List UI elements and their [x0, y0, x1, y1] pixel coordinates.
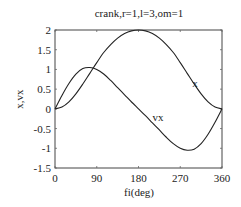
chart: crank,r=1,l=3,om=1 090180270360 21.510.5… — [0, 0, 241, 207]
y-tick-label: 0 — [46, 103, 52, 115]
y-tick-label: 1 — [46, 63, 52, 75]
y-axis: 21.510.50-0.5-1-1.5 — [34, 24, 222, 174]
series-label-vx: vx — [152, 111, 164, 123]
x-axis-label: fi(deg) — [124, 186, 154, 199]
x-tick-label: 90 — [91, 172, 103, 184]
y-tick-label: 2 — [46, 24, 52, 36]
x-tick-label: 360 — [214, 172, 231, 184]
x-tick-label: 180 — [130, 172, 147, 184]
x-tick-label: 0 — [52, 172, 58, 184]
series-annotations: xvx — [152, 77, 198, 123]
y-tick-label: 0.5 — [37, 83, 51, 95]
series-line-x — [55, 30, 222, 109]
x-tick-label: 270 — [172, 172, 189, 184]
series-label-x: x — [192, 77, 198, 89]
y-tick-label: -1 — [42, 142, 51, 154]
y-axis-label: x,vx — [13, 89, 25, 109]
chart-title: crank,r=1,l=3,om=1 — [95, 7, 184, 19]
y-tick-label: 1.5 — [37, 44, 51, 56]
x-axis: 090180270360 — [52, 30, 231, 184]
series-lines — [55, 30, 222, 150]
y-tick-label: -1.5 — [34, 162, 52, 174]
y-tick-label: -0.5 — [34, 123, 52, 135]
